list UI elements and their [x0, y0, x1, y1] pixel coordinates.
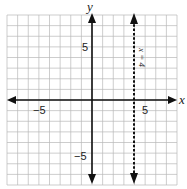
x-axis-left-arrow-icon — [7, 96, 16, 104]
x-tick-pos5: 5 — [142, 104, 148, 116]
coordinate-plane: x y −5 5 5 −5 x = 4 — [0, 0, 187, 189]
dashed-line-bottom-arrow-icon — [130, 173, 138, 184]
line-label: x = 4 — [137, 47, 147, 68]
y-axis-top-arrow-icon — [88, 13, 96, 23]
x-axis-right-arrow-icon — [168, 96, 177, 104]
y-axis-label: y — [85, 0, 93, 14]
y-tick-pos5: 5 — [82, 41, 88, 53]
x-axis-label: x — [178, 92, 185, 107]
x-tick-neg5: −5 — [33, 104, 46, 116]
y-axis-bottom-arrow-icon — [88, 174, 96, 184]
y-tick-neg5: −5 — [74, 150, 87, 162]
